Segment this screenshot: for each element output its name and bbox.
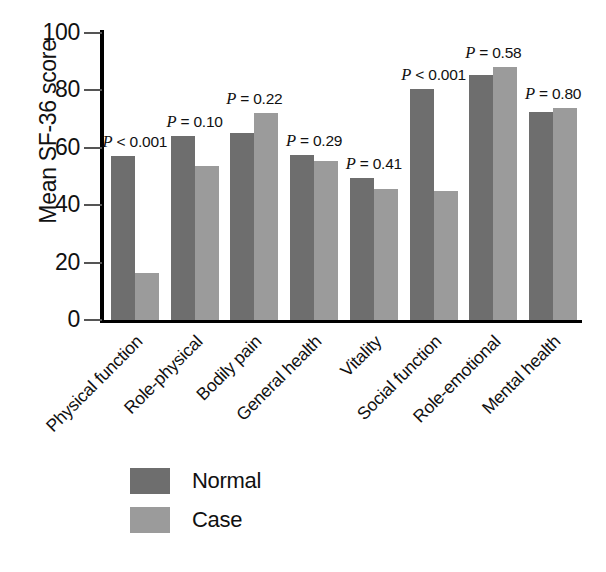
p-symbol: P: [346, 154, 356, 173]
p-symbol: P: [226, 89, 236, 108]
p-symbol: P: [525, 84, 535, 103]
bar-normal: [350, 178, 374, 320]
bar-group: [290, 33, 338, 320]
y-tick-mark: [84, 89, 102, 91]
p-value-annotation: P = 0.29: [286, 133, 342, 149]
bar-group: [111, 33, 159, 320]
bar-case: [254, 113, 278, 320]
sf36-bar-chart-figure: Mean SF-36 score 020406080100 Physical f…: [0, 0, 606, 572]
bar-normal: [290, 155, 314, 320]
p-value-annotation: P = 0.41: [346, 156, 402, 172]
plot-area: [104, 33, 582, 320]
bar-group: [529, 33, 577, 320]
bar-case: [135, 273, 159, 320]
y-tick-label: 60: [20, 136, 80, 159]
bar-normal: [111, 156, 135, 320]
y-tick-label: 20: [20, 251, 80, 274]
legend-item-case: Case: [130, 507, 261, 533]
y-tick-label: 100: [20, 21, 80, 44]
p-value-annotation: P = 0.22: [226, 91, 282, 107]
bar-case: [553, 108, 577, 320]
bar-case: [493, 67, 517, 320]
bar-normal: [230, 133, 254, 320]
bar-case: [434, 191, 458, 320]
bar-group: [230, 33, 278, 320]
y-tick-label: 40: [20, 193, 80, 216]
chart-legend: Normal Case: [130, 468, 261, 546]
p-value-annotation: P = 0.58: [465, 45, 521, 61]
p-symbol: P: [103, 132, 113, 151]
p-symbol: P: [465, 43, 475, 62]
legend-swatch-normal: [130, 468, 170, 494]
y-tick-mark: [84, 319, 102, 321]
p-symbol: P: [166, 112, 176, 131]
bar-case: [314, 161, 338, 320]
y-tick-mark: [84, 147, 102, 149]
y-tick-mark: [84, 262, 102, 264]
y-tick-mark: [84, 32, 102, 34]
bar-normal: [529, 112, 553, 320]
bar-group: [350, 33, 398, 320]
x-category-label: Physical function: [42, 332, 145, 435]
legend-label-case: Case: [192, 509, 242, 531]
p-value-annotation: P < 0.001: [401, 67, 466, 83]
p-value-annotation: P = 0.10: [166, 114, 222, 130]
bar-group: [469, 33, 517, 320]
p-symbol: P: [286, 131, 296, 150]
legend-item-normal: Normal: [130, 468, 261, 494]
y-tick-label: 80: [20, 78, 80, 101]
bar-group: [171, 33, 219, 320]
bar-case: [195, 166, 219, 320]
y-tick-mark: [84, 204, 102, 206]
y-tick-label: 0: [20, 308, 80, 331]
bar-normal: [410, 89, 434, 320]
p-value-annotation: P = 0.80: [525, 86, 581, 102]
p-symbol: P: [401, 65, 411, 84]
legend-label-normal: Normal: [192, 470, 261, 492]
legend-swatch-case: [130, 507, 170, 533]
bar-normal: [469, 75, 493, 320]
bar-normal: [171, 136, 195, 320]
x-axis-line: [100, 320, 582, 323]
p-value-annotation: P < 0.001: [103, 134, 168, 150]
bar-case: [374, 189, 398, 320]
x-category-label: Vitality: [337, 332, 385, 380]
